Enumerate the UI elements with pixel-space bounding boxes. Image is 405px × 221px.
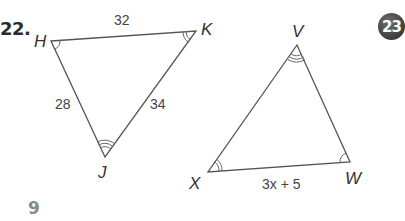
- vertex-label-v: V: [292, 22, 303, 42]
- angle-mark-k-1: [186, 32, 190, 40]
- side-label-xw: 3x + 5: [262, 176, 301, 192]
- page-number: 9: [28, 198, 40, 218]
- angle-mark-v-1: [291, 54, 302, 56]
- angle-mark-h: [55, 40, 60, 49]
- side-label-hk: 32: [114, 12, 130, 28]
- vertex-label-x: X: [189, 174, 200, 194]
- vertex-label-h: H: [34, 32, 46, 52]
- angle-mark-j-2: [99, 143, 114, 146]
- vertex-label-w: W: [345, 169, 361, 189]
- angle-mark-v-2: [290, 57, 304, 59]
- triangle-hkj: [51, 31, 196, 157]
- problem-badge: 23: [378, 13, 405, 40]
- badge-label: 23: [382, 18, 401, 36]
- angle-mark-w: [340, 153, 346, 163]
- problem-number: 22.: [0, 18, 30, 39]
- side-label-kj: 34: [150, 96, 166, 112]
- vertex-label-j: J: [98, 163, 107, 183]
- side-label-hj: 28: [55, 96, 71, 112]
- triangle-vxw: [208, 45, 350, 172]
- vertex-label-k: K: [201, 20, 212, 40]
- angle-mark-x-1: [215, 162, 219, 171]
- angle-mark-v-3: [288, 60, 305, 62]
